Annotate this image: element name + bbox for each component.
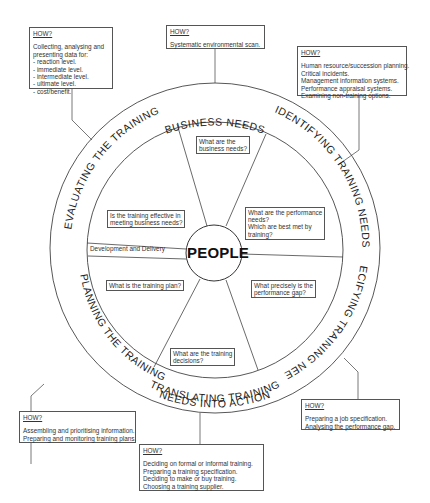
- q-line: meeting business needs?: [110, 219, 182, 226]
- q-line: needs?: [248, 216, 322, 223]
- q-line: Development and Delivery: [90, 245, 165, 252]
- how-line: Human resource/succession planning.: [301, 62, 403, 69]
- how-box-translating: HOW? Deciding on formal or informal trai…: [139, 444, 264, 491]
- q-line: Is the training effective in: [110, 212, 182, 219]
- how-box-identifying: HOW? Human resource/succession planning.…: [297, 46, 407, 96]
- how-line: Collecting, analysing and: [33, 43, 109, 50]
- question-training-effective: Is the training effective in meeting bus…: [107, 210, 185, 228]
- question-training-decisions: What are the training decisions?: [170, 348, 235, 366]
- q-line: What precisely is the: [254, 282, 313, 289]
- how-line: Assembling and prioritising information.: [23, 427, 132, 434]
- how-line: - intermediate level.: [33, 73, 109, 80]
- how-line: - ultimate level.: [33, 80, 109, 87]
- how-heading: HOW?: [23, 414, 132, 421]
- q-line: performance gap?: [254, 289, 313, 296]
- how-box-specifying: HOW? Preparing a job specification. Anal…: [301, 399, 400, 430]
- how-line: Preparing a job specification.: [305, 415, 396, 422]
- training-cycle-diagram: BUSINESS NEEDS IDENTIFYING TRAINING NEED…: [0, 0, 430, 503]
- label-development-delivery: Development and Delivery: [88, 244, 167, 253]
- how-heading: HOW?: [143, 447, 260, 454]
- q-line: What are the training: [173, 350, 232, 357]
- how-line: Choosing a training supplier.: [143, 483, 260, 490]
- how-line: Examining non-training options.: [301, 92, 403, 99]
- how-box-planning: HOW? Assembling and prioritising informa…: [19, 411, 136, 443]
- people-label: PEOPLE: [187, 244, 249, 261]
- how-line: Preparing a training specification.: [143, 468, 260, 475]
- how-heading: HOW?: [301, 49, 403, 56]
- how-heading: HOW?: [33, 30, 109, 37]
- how-line: Management information systems.: [301, 77, 403, 84]
- q-line: decisions?: [173, 357, 232, 364]
- how-heading: HOW?: [170, 28, 261, 35]
- how-line: presenting data for:: [33, 51, 109, 58]
- question-business-needs: What are the business needs?: [196, 136, 250, 154]
- how-line: Systematic environmental scan.: [170, 41, 261, 48]
- how-line: - cost/benefit.: [33, 88, 109, 95]
- how-line: Preparing and monitoring training plans.: [23, 435, 132, 442]
- how-box-evaluating: HOW? Collecting, analysing and presentin…: [29, 27, 113, 89]
- how-line: Analysing the performance gap.: [305, 423, 396, 430]
- connector-specifying: [344, 358, 358, 399]
- how-box-business: HOW? Systematic environmental scan.: [166, 25, 265, 49]
- how-line: Performance appraisal systems.: [301, 85, 403, 92]
- how-line: Deciding on formal or informal training.: [143, 460, 260, 467]
- connector-evaluating: [72, 88, 92, 140]
- how-line: Deciding to make or buy training.: [143, 475, 260, 482]
- q-line: business needs?: [199, 145, 247, 152]
- question-training-plan: What is the training plan?: [106, 280, 184, 291]
- how-heading: HOW?: [305, 402, 396, 409]
- q-line: training?: [248, 231, 322, 238]
- question-performance-needs: What are the performance needs? Which ar…: [245, 207, 325, 240]
- how-line: Critical incidents.: [301, 70, 403, 77]
- ring-label-business-needs: BUSINESS NEEDS: [163, 115, 267, 135]
- spoke-6b: [88, 256, 186, 259]
- question-performance-gap: What precisely is the performance gap?: [251, 280, 316, 298]
- how-line: - reaction level.: [33, 58, 109, 65]
- how-line: - immediate level.: [33, 66, 109, 73]
- spoke-3: [242, 254, 343, 257]
- q-line: What is the training plan?: [109, 282, 181, 289]
- q-line: What are the performance: [248, 209, 322, 216]
- q-line: Which are best met by: [248, 223, 322, 230]
- q-line: What are the: [199, 138, 247, 145]
